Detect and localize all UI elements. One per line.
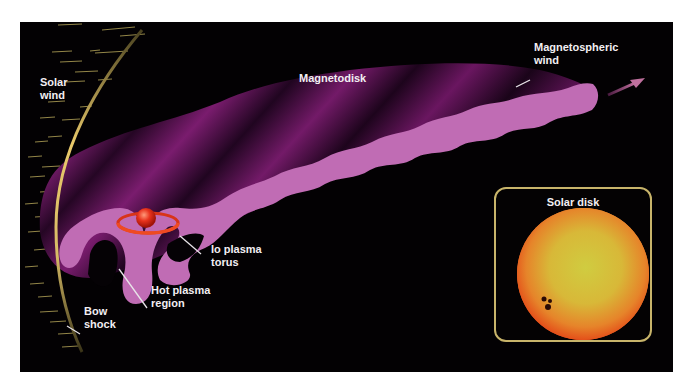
label-hot-plasma-region: Hot plasma region [151,284,210,310]
solar-disk-inset: Solar disk [494,187,652,342]
label-io-plasma-torus: Io plasma torus [211,243,262,269]
io-moon [136,208,156,228]
label-solar-wind: Solar wind [40,76,68,102]
label-magnetospheric-wind: Magnetospheric wind [534,41,618,67]
label-magnetodisk: Magnetodisk [299,72,366,85]
label-bow-shock: Bow shock [84,305,116,331]
sun-image [496,189,650,340]
magnetospheric-wind-arrow [608,78,645,95]
diagram-panel: Solar wind Magnetodisk Magnetospheric wi… [20,22,673,372]
